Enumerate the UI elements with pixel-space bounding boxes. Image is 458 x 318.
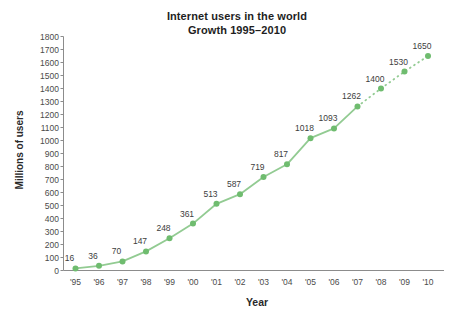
x-tick-label: '09 xyxy=(399,277,410,287)
data-point xyxy=(167,235,173,241)
x-tick-label: '03 xyxy=(258,277,269,287)
data-point xyxy=(190,221,196,227)
y-tick-label: 800 xyxy=(45,162,59,172)
y-tick-label: 1700 xyxy=(40,45,59,55)
data-point xyxy=(284,161,290,167)
data-point-label: 147 xyxy=(133,236,147,246)
x-tick-label: '00 xyxy=(187,277,198,287)
x-axis-title: Year xyxy=(112,296,402,308)
data-point-label: 1400 xyxy=(366,74,385,84)
y-tick-label: 900 xyxy=(45,149,59,159)
data-point-label: 587 xyxy=(227,179,241,189)
data-line-solid xyxy=(76,106,358,268)
data-point-label: 36 xyxy=(88,251,98,261)
data-point xyxy=(120,258,126,264)
x-tick-label: '99 xyxy=(164,277,175,287)
data-point xyxy=(237,191,243,197)
y-tick-label: 1300 xyxy=(40,97,59,107)
y-tick-label: 600 xyxy=(45,188,59,198)
x-tick-label: '10 xyxy=(422,277,433,287)
data-point-label: 16 xyxy=(65,253,75,263)
data-point-label: 248 xyxy=(156,223,170,233)
data-point xyxy=(402,69,408,75)
data-point xyxy=(96,263,102,269)
x-tick-label: '04 xyxy=(281,277,292,287)
data-point xyxy=(214,201,220,207)
data-point xyxy=(425,53,431,59)
data-point-label: 719 xyxy=(250,162,264,172)
data-point xyxy=(355,103,361,109)
x-tick-label: '98 xyxy=(140,277,151,287)
data-point xyxy=(378,86,384,92)
data-point-label: 1093 xyxy=(319,113,338,123)
y-tick-label: 200 xyxy=(45,240,59,250)
y-tick-label: 100 xyxy=(45,253,59,263)
x-tick-label: '06 xyxy=(328,277,339,287)
data-point xyxy=(331,125,337,131)
y-tick-label: 1100 xyxy=(41,123,60,133)
x-tick-label: '08 xyxy=(375,277,386,287)
x-tick-label: '02 xyxy=(234,277,245,287)
chart-canvas: Internet users in the world Growth 1995–… xyxy=(0,0,458,318)
y-tick-label: 1000 xyxy=(40,136,59,146)
y-tick-label: 1600 xyxy=(40,58,59,68)
data-point xyxy=(308,135,314,141)
y-tick-label: 1400 xyxy=(40,84,59,94)
y-tick-label: 700 xyxy=(45,175,59,185)
y-tick-label: 1800 xyxy=(40,32,59,42)
x-tick-label: '97 xyxy=(117,277,128,287)
x-tick-label: '05 xyxy=(305,277,316,287)
data-point-label: 817 xyxy=(274,149,288,159)
x-tick-label: '01 xyxy=(211,277,222,287)
y-tick-label: 0 xyxy=(54,266,59,276)
data-point xyxy=(143,248,149,254)
data-point-label: 1650 xyxy=(413,41,432,51)
line-chart-plot: 0100200300400500600700800900100011001200… xyxy=(0,0,458,318)
y-tick-label: 300 xyxy=(45,227,59,237)
data-point-label: 1530 xyxy=(389,57,408,67)
data-point xyxy=(261,174,267,180)
data-point-label: 1262 xyxy=(342,91,361,101)
data-point-label: 70 xyxy=(112,246,122,256)
y-tick-label: 500 xyxy=(45,201,59,211)
y-tick-label: 1500 xyxy=(40,71,59,81)
x-tick-label: '95 xyxy=(70,277,81,287)
x-tick-label: '96 xyxy=(93,277,104,287)
data-point-label: 513 xyxy=(203,189,217,199)
y-tick-label: 1200 xyxy=(40,110,59,120)
y-tick-label: 400 xyxy=(45,214,59,224)
x-tick-label: '07 xyxy=(352,277,363,287)
data-point-label: 1018 xyxy=(295,123,314,133)
data-point xyxy=(73,265,79,271)
data-point-label: 361 xyxy=(180,209,194,219)
